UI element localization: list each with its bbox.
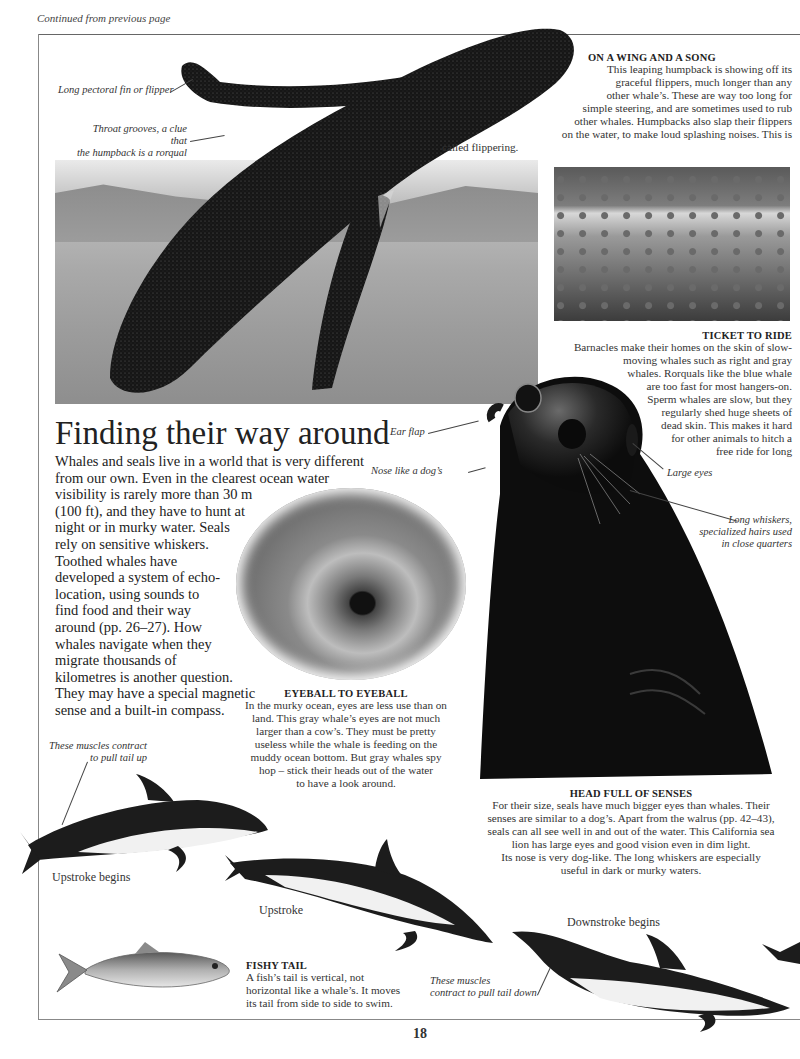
label-muscles-down: These muscles contract to pull tail down: [430, 975, 537, 999]
label-long-whiskers: Long whiskers, specialized hairs used in…: [680, 514, 792, 550]
caption-line: muddy ocean bottom. But gray whales spy: [228, 751, 464, 764]
pointer-ear: [428, 420, 479, 434]
label-muscles-up-line1: These muscles contract: [45, 740, 147, 752]
caption-line: land. This gray whale’s eyes are not muc…: [228, 712, 464, 725]
caption-line: seals can all see well in and out of the…: [462, 825, 800, 838]
caption-line: other whale’s. These are way too long fo…: [480, 89, 792, 102]
caption-head-full-of-senses: HEAD FULL OF SENSES For their size, seal…: [462, 788, 800, 877]
caption-line: simple steering, and are sometimes used …: [480, 102, 792, 115]
caption-line: A fish’s tail is vertical, not: [246, 971, 436, 984]
caption-line: lion has large eyes and good vision even…: [462, 838, 800, 851]
caption-line: horizontal like a whale’s. It moves: [246, 984, 436, 997]
caption-line: useful in dark or murky waters.: [462, 864, 800, 877]
caption-title: HEAD FULL OF SENSES: [462, 788, 800, 799]
intro-line: from our own. Even in the clearest ocean…: [55, 470, 380, 487]
caption-line: larger than a cow’s. They must be pretty: [228, 725, 464, 738]
caption-line: graceful flippers, much longer than any: [480, 76, 792, 89]
caption-body: For their size, seals have much bigger e…: [462, 799, 800, 877]
caption-fishy-tail: FISHY TAIL A fish’s tail is vertical, no…: [246, 960, 436, 1010]
label-muscles-up: These muscles contract to pull tail up: [45, 740, 147, 764]
label-upstroke-begins: Upstroke begins: [52, 871, 130, 884]
caption-line: Barnacles make their homes on the skin o…: [540, 341, 792, 354]
label-whiskers-line3: in close quarters: [680, 538, 792, 550]
sea-lion-image: [480, 374, 780, 779]
caption-line: moving whales such as right and gray: [540, 354, 792, 367]
caption-line: This leaping humpback is showing off its: [480, 63, 792, 76]
continued-note: Continued from previous page: [37, 12, 170, 24]
page-number: 18: [0, 1026, 800, 1042]
caption-line: on the water, to make loud splashing noi…: [480, 128, 792, 141]
label-large-eyes: Large eyes: [667, 467, 712, 479]
caption-line: For their size, seals have much bigger e…: [462, 799, 800, 812]
caption-title: ON A WING AND A SONG: [480, 52, 792, 63]
caption-body: This leaping humpback is showing off its…: [480, 63, 792, 154]
caption-line: called flippering.: [442, 141, 792, 154]
dolphin-upstroke-image: [225, 835, 500, 955]
caption-title: FISHY TAIL: [246, 960, 436, 971]
label-muscles-down-line2: contract to pull tail down: [430, 987, 537, 999]
label-throat-line1: Throat grooves, a clue that: [75, 123, 187, 147]
caption-line: its tail from side to side to swim.: [246, 997, 436, 1010]
caption-body: A fish’s tail is vertical, not horizonta…: [246, 971, 436, 1010]
label-nose: Nose like a dog’s: [371, 465, 442, 477]
label-muscles-up-line2: to pull tail up: [45, 752, 147, 764]
caption-line: Its nose is very dog-like. The long whis…: [462, 851, 800, 864]
dolphin-downstroke-begins-image: [510, 928, 795, 1038]
caption-on-a-wing: ON A WING AND A SONG This leaping humpba…: [480, 52, 792, 154]
barnacle-photo: [554, 167, 790, 321]
label-throat-grooves: Throat grooves, a clue that the humpback…: [75, 123, 187, 159]
label-whiskers-line2: specialized hairs used: [680, 526, 792, 538]
label-ear-flap: Ear flap: [390, 426, 425, 438]
caption-line: In the murky ocean, eyes are less use th…: [228, 699, 464, 712]
label-pectoral-flipper: Long pectoral fin or flipper: [58, 84, 174, 96]
page-title: Finding their way around: [55, 414, 390, 452]
caption-title: EYEBALL TO EYEBALL: [228, 688, 464, 699]
caption-title: TICKET TO RIDE: [540, 330, 792, 341]
gray-whale-eye-photo: [236, 488, 466, 680]
caption-line: senses are similar to a dog’s. Apart fro…: [462, 812, 800, 825]
caption-line: other whales. Humpbacks also slap their …: [480, 115, 792, 128]
caption-line: useless while the whale is feeding on th…: [228, 738, 464, 751]
intro-line: Whales and seals live in a world that is…: [55, 453, 380, 470]
label-throat-line2: the humpback is a rorqual: [75, 147, 187, 159]
label-muscles-down-line1: These muscles: [430, 975, 537, 987]
fish-image: [55, 940, 235, 1002]
dolphin-tail-partial-image: [762, 938, 800, 968]
label-upstroke: Upstroke: [259, 904, 303, 917]
